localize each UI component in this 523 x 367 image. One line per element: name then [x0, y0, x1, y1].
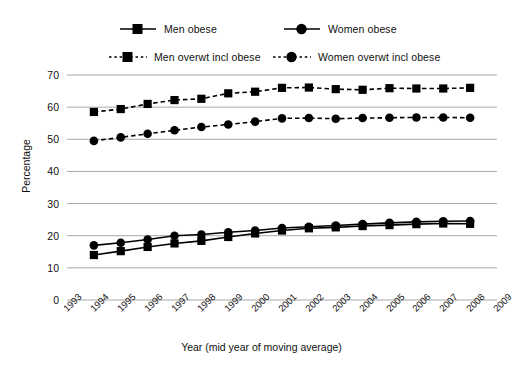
series-2: [90, 83, 474, 116]
grid-lines: [67, 75, 497, 300]
chart-plot-area: [0, 0, 523, 367]
chart-canvas: [0, 0, 523, 367]
series-3: [90, 113, 475, 145]
chart-figure: Men obese Women obese Men overwt incl ob…: [0, 0, 523, 367]
